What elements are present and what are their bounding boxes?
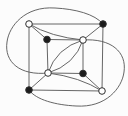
edge-lens-arc-lower-right	[48, 40, 83, 73]
edge-chord-arc-top	[29, 24, 83, 40]
edge-chord-arc-bottom	[48, 73, 102, 91]
edge-connector-bottom-left	[29, 73, 48, 90]
edge-inner-left	[47, 40, 48, 74]
graph-svg	[0, 0, 128, 116]
graph-diagram	[0, 0, 128, 116]
vertex-inner-bottom-right-black	[80, 70, 87, 77]
edge-outer-right	[102, 24, 103, 91]
edge-outer-bottom	[29, 90, 102, 91]
edge-lens-arc-upper-left	[48, 40, 83, 73]
edge-inner-top	[47, 40, 83, 41]
vertex-inner-bottom-left-white	[45, 70, 52, 77]
edge-outside-arc-top-left	[7, 8, 103, 74]
vertex-inner-top-right-white	[80, 37, 87, 44]
edge-connector-top-right	[83, 24, 103, 40]
vertex-outer-top-right-black	[100, 21, 107, 28]
vertex-inner-top-left-black	[44, 36, 51, 43]
vertex-outer-bottom-right-white	[99, 88, 106, 95]
vertex-outer-top-left-white	[26, 21, 33, 28]
vertex-outer-bottom-left-black	[26, 87, 33, 94]
edge-inner-bottom	[48, 73, 83, 74]
